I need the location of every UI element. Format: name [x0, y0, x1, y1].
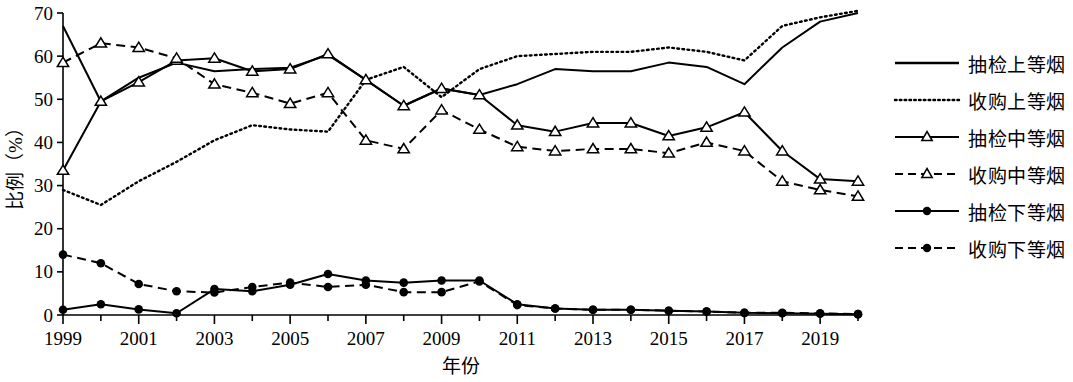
x-tick-label: 2019	[801, 328, 839, 349]
y-tick-label: 10	[34, 261, 53, 282]
legend-item-2: 抽检中等烟	[893, 126, 1073, 148]
data-point-triangle	[95, 96, 106, 105]
data-point-circle	[210, 288, 219, 297]
x-tick-label: 2003	[195, 328, 233, 349]
y-axis-title: 比例（%）	[5, 118, 26, 210]
data-point-triangle	[701, 137, 712, 146]
series-line	[63, 255, 858, 315]
data-point-circle	[513, 301, 522, 310]
data-point-triangle	[512, 141, 523, 150]
data-point-circle	[286, 278, 295, 287]
series-line	[63, 11, 858, 205]
legend-swatch-solid-triangle	[893, 127, 961, 147]
x-tick-label: 2009	[423, 328, 461, 349]
data-point-circle	[324, 283, 333, 292]
x-tick-label: 2015	[650, 328, 688, 349]
data-point-circle	[816, 309, 825, 318]
line-chart: 0102030405060701999200120032005200720092…	[0, 0, 880, 382]
data-point-circle	[248, 283, 257, 292]
y-tick-label: 30	[34, 175, 53, 196]
data-point-circle	[778, 309, 787, 318]
legend-item-0: 抽检上等烟	[893, 52, 1073, 74]
data-point-triangle	[474, 124, 485, 133]
data-point-triangle	[57, 165, 68, 174]
data-point-triangle	[247, 87, 258, 96]
series-2	[57, 49, 863, 186]
x-tick-label: 2005	[271, 328, 309, 349]
series-line	[63, 274, 858, 314]
series-5	[59, 250, 863, 318]
data-point-triangle	[95, 38, 106, 47]
data-point-circle	[740, 309, 749, 318]
data-point-circle	[97, 300, 106, 309]
data-point-circle	[589, 306, 598, 315]
series-1	[63, 11, 858, 205]
legend-item-3: 收购中等烟	[893, 163, 1073, 185]
data-point-circle	[59, 306, 68, 315]
data-point-triangle	[57, 57, 68, 66]
y-tick-label: 20	[34, 218, 53, 239]
data-point-circle	[551, 304, 560, 313]
y-tick-label: 0	[44, 305, 54, 326]
data-point-circle	[854, 310, 863, 319]
legend-label-4: 抽检下等烟	[968, 198, 1066, 225]
data-point-circle	[172, 287, 181, 296]
data-point-triangle	[739, 107, 750, 116]
data-point-circle	[627, 306, 636, 315]
x-tick-label: 2013	[574, 328, 612, 349]
legend-label-1: 收购上等烟	[968, 87, 1066, 114]
data-point-circle	[324, 270, 333, 279]
legend-label-0: 抽检上等烟	[968, 50, 1066, 77]
data-point-triangle	[322, 49, 333, 58]
legend-item-5: 收购下等烟	[893, 237, 1073, 259]
y-tick-label: 70	[34, 3, 53, 24]
legend-item-4: 抽检下等烟	[893, 200, 1073, 222]
data-point-triangle	[777, 176, 788, 185]
y-tick-label: 60	[34, 46, 53, 67]
legend-label-3: 收购中等烟	[968, 161, 1066, 188]
legend-swatch-solid-plain	[893, 53, 961, 73]
data-point-circle	[172, 309, 181, 318]
legend-label-5: 收购下等烟	[968, 235, 1066, 262]
data-point-triangle	[171, 53, 182, 62]
series-line	[63, 54, 858, 181]
chart-svg: 0102030405060701999200120032005200720092…	[0, 0, 880, 382]
x-tick-label: 2011	[499, 328, 536, 349]
data-point-circle	[399, 288, 408, 297]
data-point-circle	[437, 276, 446, 285]
x-tick-label: 2007	[347, 328, 385, 349]
chart-legend: 抽检上等烟 收购上等烟 抽检中等烟 收购中等烟	[893, 52, 1073, 259]
legend-swatch-dashed-triangle	[893, 164, 961, 184]
data-point-circle	[702, 307, 711, 316]
legend-item-1: 收购上等烟	[893, 89, 1073, 111]
legend-swatch-solid-circle	[893, 201, 961, 221]
data-point-triangle	[322, 87, 333, 96]
data-point-circle	[134, 305, 143, 314]
legend-swatch-dashed-circle	[893, 238, 961, 258]
y-tick-label: 50	[34, 89, 53, 110]
legend-swatch-dotted-plain	[893, 90, 961, 110]
legend-label-2: 抽检中等烟	[968, 124, 1066, 151]
series-3	[57, 38, 863, 200]
chart-root: 0102030405060701999200120032005200720092…	[0, 0, 1073, 382]
x-tick-label: 2001	[120, 328, 158, 349]
data-point-circle	[362, 281, 371, 290]
series-line	[63, 43, 858, 196]
x-tick-label: 2017	[725, 328, 763, 349]
data-point-circle	[475, 277, 484, 286]
data-point-circle	[399, 278, 408, 287]
y-tick-label: 40	[34, 132, 53, 153]
x-axis-title: 年份	[442, 356, 480, 377]
data-point-triangle	[209, 79, 220, 88]
data-point-triangle	[436, 105, 447, 114]
data-point-circle	[59, 250, 68, 259]
data-point-circle	[134, 280, 143, 289]
data-point-triangle	[436, 83, 447, 92]
data-point-circle	[664, 306, 673, 315]
data-point-circle	[97, 259, 106, 268]
x-tick-label: 1999	[44, 328, 82, 349]
data-point-circle	[437, 288, 446, 297]
